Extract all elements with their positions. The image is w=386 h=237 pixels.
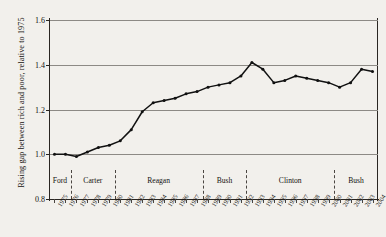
plot-area: 0.81.01.21.41.6 197519761977197819791980… bbox=[49, 20, 378, 199]
data-series-line bbox=[49, 20, 378, 199]
data-point-marker bbox=[250, 61, 253, 64]
data-point-marker bbox=[196, 90, 199, 93]
x-tick-mark bbox=[120, 199, 121, 203]
data-point-marker bbox=[272, 81, 275, 84]
data-point-marker bbox=[141, 110, 144, 113]
x-tick-mark bbox=[65, 199, 66, 203]
data-point-marker bbox=[217, 83, 220, 86]
data-point-marker bbox=[305, 77, 308, 80]
data-point-marker bbox=[360, 68, 363, 71]
data-point-marker bbox=[294, 74, 297, 77]
x-tick-mark bbox=[373, 199, 374, 203]
data-point-marker bbox=[130, 128, 133, 131]
data-point-marker bbox=[163, 99, 166, 102]
x-tick-mark bbox=[131, 199, 132, 203]
data-point-marker bbox=[119, 139, 122, 142]
y-tick-mark bbox=[46, 199, 50, 200]
data-point-marker bbox=[97, 146, 100, 149]
x-tick-mark bbox=[54, 199, 55, 203]
x-tick-mark bbox=[208, 199, 209, 203]
x-tick-mark bbox=[175, 199, 176, 203]
data-point-marker bbox=[64, 153, 67, 156]
x-tick-mark bbox=[87, 199, 88, 203]
x-tick-mark bbox=[109, 199, 110, 203]
x-tick-mark bbox=[186, 199, 187, 203]
chart-container: Rising gap between rich and poor, relati… bbox=[0, 0, 386, 237]
data-point-marker bbox=[283, 79, 286, 82]
data-point-marker bbox=[228, 81, 231, 84]
data-point-marker bbox=[349, 81, 352, 84]
x-tick-mark bbox=[197, 199, 198, 203]
x-tick-mark bbox=[76, 199, 77, 203]
data-point-marker bbox=[316, 79, 319, 82]
y-tick-label: 1.4 bbox=[35, 60, 45, 69]
y-tick-label: 1.0 bbox=[35, 150, 45, 159]
y-tick-label: 1.6 bbox=[35, 16, 45, 25]
x-tick-mark bbox=[98, 199, 99, 203]
data-point-marker bbox=[53, 153, 56, 156]
data-point-marker bbox=[185, 92, 188, 95]
data-point-marker bbox=[239, 74, 242, 77]
x-tick-mark bbox=[164, 199, 165, 203]
x-tick-mark bbox=[142, 199, 143, 203]
data-point-marker bbox=[207, 86, 210, 89]
data-point-marker bbox=[327, 81, 330, 84]
data-point-marker bbox=[371, 70, 374, 73]
data-point-marker bbox=[152, 101, 155, 104]
data-point-marker bbox=[75, 155, 78, 158]
data-point-marker bbox=[338, 86, 341, 89]
series-line bbox=[54, 63, 372, 157]
y-tick-label: 1.2 bbox=[35, 105, 45, 114]
y-tick-label: 0.8 bbox=[35, 195, 45, 204]
data-point-marker bbox=[174, 97, 177, 100]
x-tick-mark bbox=[153, 199, 154, 203]
data-point-marker bbox=[108, 144, 111, 147]
data-point-marker bbox=[86, 151, 89, 154]
y-axis-title: Rising gap between rich and poor, relati… bbox=[17, 0, 26, 208]
data-point-marker bbox=[261, 68, 264, 71]
